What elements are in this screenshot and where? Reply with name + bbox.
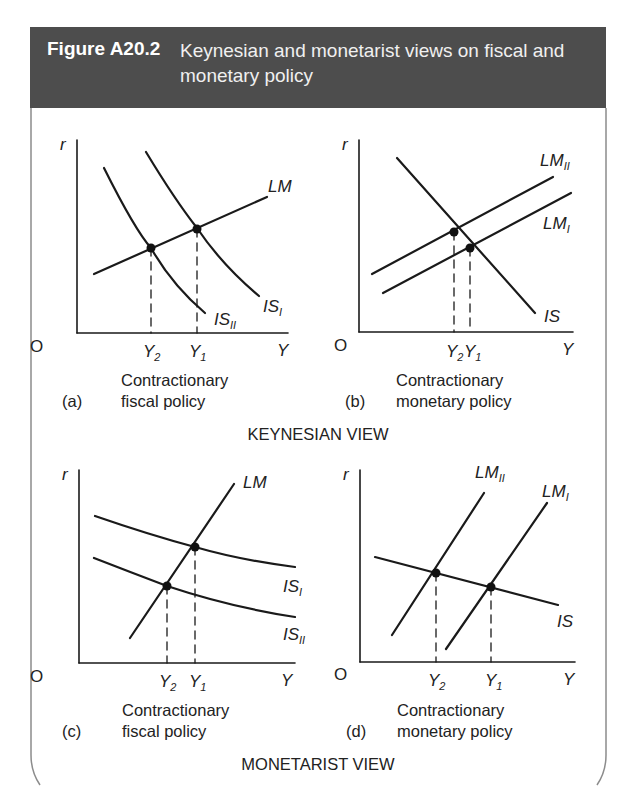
is-i-curve <box>146 152 259 296</box>
equilibrium-point-b1 <box>466 244 475 253</box>
panel-c <box>79 470 295 663</box>
is-label: IS <box>557 612 574 631</box>
monetarist-view-label: MONETARIST VIEW <box>241 755 395 773</box>
y-axis-label: Y <box>563 670 576 689</box>
panel-label: (a) <box>62 392 82 410</box>
equilibrium-point-c2 <box>163 582 172 591</box>
lm-i-curve <box>446 503 547 649</box>
equilibrium-point-a1 <box>193 225 202 234</box>
panel-label: (b) <box>345 392 365 410</box>
is-ii-curve <box>104 168 205 313</box>
y1-tick-label: Y1 <box>464 342 481 363</box>
r-axis-label: r <box>62 465 69 484</box>
panel-label: (d) <box>346 722 366 740</box>
panel-a <box>77 140 288 333</box>
panel-label: (c) <box>62 722 81 740</box>
y2-tick-label: Y2 <box>446 342 463 363</box>
lm-label: LM <box>268 177 292 196</box>
is-ii-label: ISII <box>283 625 305 646</box>
caption-line-2: fiscal policy <box>122 722 207 740</box>
equilibrium-point-d2 <box>432 569 441 578</box>
is-curve <box>375 557 558 605</box>
y1-tick-label: Y1 <box>485 671 502 692</box>
y1-tick-label: Y1 <box>189 672 206 693</box>
lm-label: LM <box>243 473 267 492</box>
equilibrium-point-c1 <box>191 543 200 552</box>
is-i-label: ISI <box>283 577 302 598</box>
caption-line-1: Contractionary <box>121 371 229 389</box>
frame-right <box>597 108 606 785</box>
is-label: IS <box>544 307 561 326</box>
keynesian-view-label: KEYNESIAN VIEW <box>247 425 389 443</box>
is-i-label: ISI <box>263 297 282 318</box>
equilibrium-point-b2 <box>450 228 459 237</box>
equilibrium-point-d1 <box>487 583 496 592</box>
lm-ii-label: LMII <box>540 151 570 172</box>
origin-label: O <box>30 337 43 356</box>
origin-label: O <box>334 336 347 355</box>
caption-line-2: fiscal policy <box>121 392 206 410</box>
y2-tick-label: Y2 <box>159 672 176 693</box>
figure-body: r LM ISI ISII O Y2 Y1 Y Contractionary (… <box>0 0 625 787</box>
lm-curve <box>130 484 234 638</box>
y-axis-label: Y <box>277 341 290 360</box>
caption-line-1: Contractionary <box>122 701 230 719</box>
y-axis-label: Y <box>562 340 575 359</box>
y1-tick-label: Y1 <box>189 342 206 363</box>
lm-ii-label: LMII <box>475 463 505 484</box>
lm-curve <box>94 197 267 274</box>
caption-line-2: monetary policy <box>396 392 512 410</box>
r-axis-label: r <box>60 135 67 154</box>
r-axis-label: r <box>343 465 350 484</box>
caption-line-1: Contractionary <box>396 371 504 389</box>
y-axis-label: Y <box>281 671 294 690</box>
is-ii-label: ISII <box>214 310 236 331</box>
lm-ii-curve <box>372 177 553 274</box>
r-axis-label: r <box>342 135 349 154</box>
caption-line-2: monetary policy <box>397 722 513 740</box>
lm-i-label: LMI <box>542 482 569 503</box>
y2-tick-label: Y2 <box>428 671 445 692</box>
caption-line-1: Contractionary <box>397 701 505 719</box>
y2-tick-label: Y2 <box>143 342 160 363</box>
origin-label: O <box>30 667 43 686</box>
lm-i-curve <box>383 193 571 293</box>
origin-label: O <box>334 665 347 684</box>
is-curve <box>397 158 535 313</box>
lm-i-label: LMI <box>543 214 570 235</box>
equilibrium-point-a2 <box>147 244 156 253</box>
